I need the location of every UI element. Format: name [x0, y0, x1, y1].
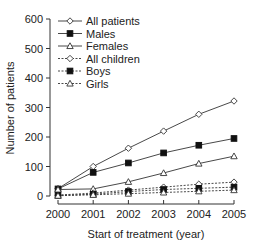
data-point — [231, 153, 237, 159]
y-tick-label: 200 — [25, 131, 43, 143]
series-females — [55, 153, 237, 192]
legend-marker-icon — [67, 55, 73, 61]
series-line — [58, 156, 234, 189]
x-tick-label: 2003 — [151, 208, 175, 220]
data-point — [90, 170, 96, 176]
x-tick-label: 2000 — [46, 208, 70, 220]
series-line — [58, 101, 234, 189]
x-axis-label: Start of treatment (year) — [88, 228, 205, 240]
legend-item: Females — [58, 40, 129, 52]
data-point — [160, 128, 166, 134]
legend-label: Females — [86, 40, 129, 52]
series-all-children — [55, 179, 237, 198]
legend-item: Males — [58, 28, 116, 40]
x-tick-label: 2002 — [116, 208, 140, 220]
data-point — [90, 163, 96, 169]
legend-item: All children — [58, 53, 140, 65]
legend-item: Boys — [58, 65, 111, 77]
data-point — [196, 111, 202, 117]
legend-label: Girls — [86, 78, 109, 90]
x-tick-label: 2004 — [187, 208, 211, 220]
x-tick-label: 2005 — [222, 208, 246, 220]
data-point — [196, 142, 202, 148]
y-axis-label: Number of patients — [4, 61, 16, 154]
series-group — [55, 98, 237, 199]
legend-label: Boys — [86, 65, 111, 77]
legend-label: All patients — [86, 15, 140, 27]
legend-item: Girls — [58, 78, 109, 90]
y-tick-label: 0 — [37, 190, 43, 202]
y-tick-label: 400 — [25, 72, 43, 84]
x-tick-label: 2001 — [81, 208, 105, 220]
legend-marker-icon — [67, 31, 73, 37]
data-point — [231, 136, 237, 142]
legend-marker-icon — [67, 68, 73, 74]
y-tick-label: 600 — [25, 13, 43, 25]
y-tick-label: 500 — [25, 43, 43, 55]
legend: All patientsMalesFemalesAll childrenBoys… — [58, 15, 140, 90]
y-tick-label: 300 — [25, 102, 43, 114]
data-point — [125, 145, 131, 151]
legend-label: Males — [86, 28, 116, 40]
legend-label: All children — [86, 53, 140, 65]
line-chart: 0100200300400500600200020012002200320042… — [0, 0, 256, 247]
legend-marker-icon — [67, 18, 73, 24]
y-tick-label: 100 — [25, 161, 43, 173]
data-point — [231, 98, 237, 104]
legend-item: All patients — [58, 15, 140, 27]
series-line — [58, 138, 234, 188]
data-point — [126, 160, 132, 166]
data-point — [161, 150, 167, 156]
